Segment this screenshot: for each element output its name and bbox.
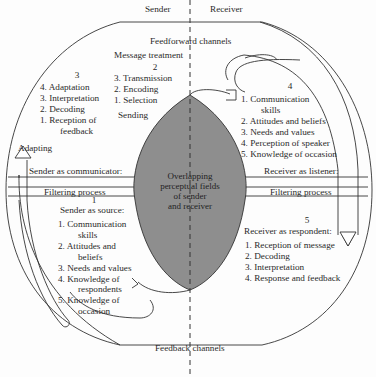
communication-model-diagram: Sender Receiver Feedforward channels Mes… — [0, 0, 376, 377]
receiver-as-listener-label: Receiver as listener: — [264, 166, 339, 177]
stage5-item: 3. Interpretation — [245, 262, 340, 273]
receiver-as-respondent-title: Receiver as respondent: — [244, 226, 332, 237]
stage3-item: 2. Decoding — [40, 104, 99, 115]
stage5-number: 5 — [302, 215, 312, 226]
stage1-item: 3. Needs and values — [58, 263, 131, 274]
stage1-item: 5. Knowledge ofoccasion — [58, 295, 131, 317]
stage2-number: 2 — [150, 62, 160, 73]
stage3-item: 4. Adaptation — [40, 82, 99, 93]
down-arrow-icon — [340, 232, 356, 246]
sender-as-source-title: Sender as source: — [60, 205, 124, 216]
stage4-number: 4 — [285, 81, 295, 92]
stage5-list: 1. Reception of message 2. Decoding 3. I… — [245, 240, 340, 284]
receiver-header: Receiver — [210, 4, 243, 15]
stage3-item: 1. Reception offeedback — [40, 115, 99, 137]
stage2-item: 2. Encoding — [114, 84, 172, 95]
stage5-item: 1. Reception of message — [245, 240, 340, 251]
stage5-item: 2. Decoding — [245, 251, 340, 262]
stage5-item: 4. Response and feedback — [245, 273, 340, 284]
stage2-item: 3. Transmission — [114, 73, 172, 84]
adapting-label: Adapting — [18, 143, 52, 154]
stage3-list: 4. Adaptation 3. Interpretation 2. Decod… — [40, 82, 99, 137]
stage3-number: 3 — [72, 70, 82, 81]
stage1-number: 1 — [89, 195, 99, 206]
stage4-item: 5. Knowledge of occasion — [241, 149, 337, 160]
stage1-list: 1. Communicationskills 2. Attitudes andb… — [58, 219, 131, 317]
message-treatment-heading: Message treatment — [114, 50, 183, 61]
right-filtering-process-label: Filtering process — [270, 187, 332, 198]
overlapping-fields-label: Overlapping perceptual fields of sender … — [140, 171, 240, 211]
sending-label: Sending — [118, 110, 148, 121]
sender-as-communicator-label: Sender as communicator: — [29, 166, 122, 177]
stage1-bracket-arrow — [132, 278, 138, 288]
stage4-item: 4. Perception of speaker — [241, 138, 337, 149]
stage1-item: 1. Communicationskills — [58, 219, 131, 241]
sender-header: Sender — [145, 4, 171, 15]
stage2-item: 1. Selection — [114, 95, 172, 106]
stage1-item: 4. Knowledge ofrespondents — [58, 274, 131, 296]
feedforward-channels-label: Feedforward channels — [150, 36, 231, 47]
feedback-channels-label: Feedback channels — [155, 343, 225, 354]
stage1-item: 2. Attitudes andbeliefs — [58, 241, 131, 263]
stage3-item: 3. Interpretation — [40, 93, 99, 104]
stage2-list: 3. Transmission 2. Encoding 1. Selection — [114, 73, 172, 106]
stage4-item: 1. Communicationskills — [241, 94, 337, 116]
stage4-item: 3. Needs and values — [241, 127, 337, 138]
stage4-bracket-arrow — [226, 90, 236, 100]
stage4-item: 2. Attitudes and beliefs — [241, 116, 337, 127]
stage4-list: 1. Communicationskills 2. Attitudes and … — [241, 94, 337, 159]
